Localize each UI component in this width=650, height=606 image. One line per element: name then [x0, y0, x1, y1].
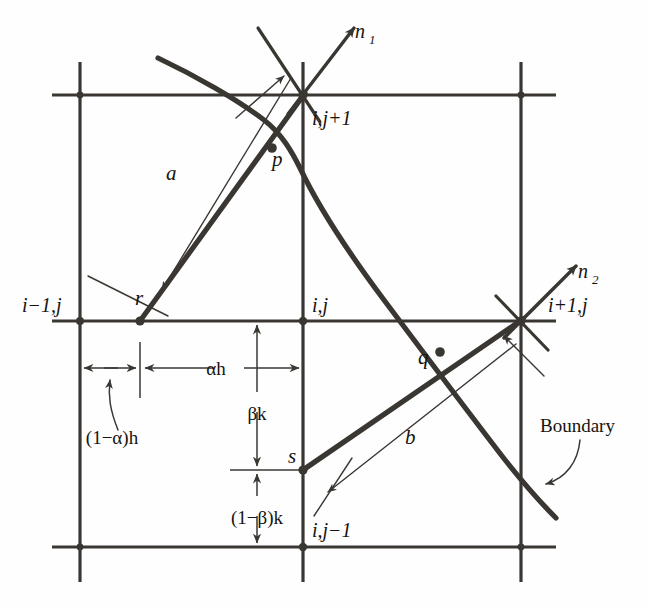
diagram-svg: n 1 n 2 i,j+1 i−1,j i,j i+1,j i,j−1 p q …: [0, 0, 650, 606]
dot-top-left: [77, 92, 84, 99]
dot-point-s: [298, 465, 307, 474]
normal-n1-arrow: [288, 28, 354, 114]
segment-a-label: a: [166, 161, 177, 185]
dot-i-j-plus-1: [298, 90, 307, 99]
dot-bottom-left: [77, 544, 84, 551]
dot-i-minus-1-j: [76, 317, 84, 325]
boundary-curve-group: [158, 58, 556, 518]
node-label-i-plus-1-j: i+1,j: [548, 294, 588, 317]
angle-tick-n1: [236, 76, 284, 118]
label-n2: n 2: [578, 260, 599, 287]
point-s-label: s: [288, 444, 296, 468]
dim-one-minus-beta-k-label: (1−β)k: [231, 507, 284, 529]
diagram-canvas: n 1 n 2 i,j+1 i−1,j i,j i+1,j i,j−1 p q …: [0, 0, 650, 606]
dim-alpha-h-label: αh: [206, 358, 226, 379]
chord-b-group: [303, 319, 523, 516]
normal-n2-label: n: [578, 260, 588, 282]
chord-a-group: [88, 78, 305, 321]
tangent-line-n1: [258, 28, 320, 122]
boundary-leader: [546, 440, 580, 484]
node-label-i-j-minus-1: i,j−1: [312, 519, 352, 542]
dot-i-plus-1-j: [516, 316, 525, 325]
angle-tick-n2: [504, 336, 544, 376]
dot-top-right: [518, 92, 525, 99]
normal-n1-subscript: 1: [369, 32, 376, 47]
boundary-label: Boundary: [540, 415, 615, 436]
dim-a-leader: [162, 78, 291, 290]
segment-b-label: b: [405, 425, 416, 449]
node-label-i-j-plus-1: i,j+1: [312, 107, 352, 130]
dot-point-r: [135, 316, 144, 325]
dim-beta-k-label: βk: [247, 403, 267, 424]
dot-i-j-minus-1: [299, 543, 307, 551]
label-n1: n 1: [355, 20, 376, 47]
boundary-leader-group: [546, 440, 580, 484]
dim-1ma-h-leader: [109, 380, 118, 430]
node-label-i-j: i,j: [312, 294, 329, 317]
dot-i-j: [299, 317, 307, 325]
dim-b-tick-start: [314, 458, 352, 516]
dim-one-minus-alpha-h-group: [84, 368, 136, 430]
point-r-label: r: [135, 286, 144, 310]
point-p-label: p: [270, 147, 283, 171]
boundary-curve: [158, 58, 556, 518]
normal-n2-subscript: 2: [592, 272, 599, 287]
point-q-label: q: [418, 345, 429, 369]
node-label-i-minus-1-j: i−1,j: [22, 294, 62, 317]
dot-point-q: [435, 347, 445, 357]
dot-bottom-right: [518, 544, 525, 551]
normal-n1-label: n: [355, 20, 365, 42]
dim-one-minus-alpha-h-label: (1−α)h: [86, 427, 139, 449]
